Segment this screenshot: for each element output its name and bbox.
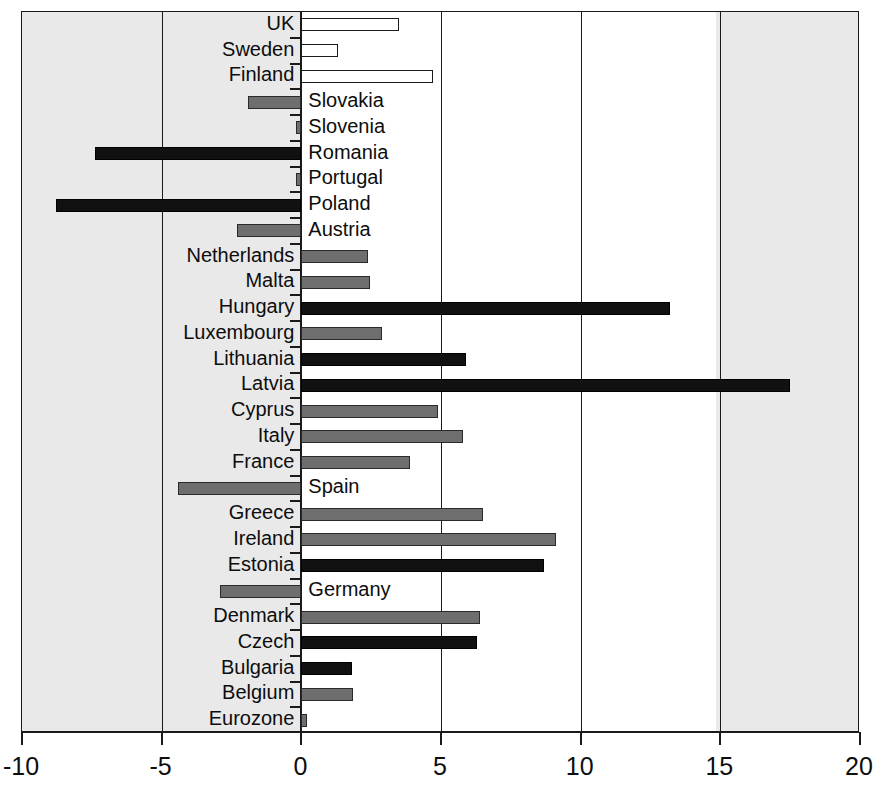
bar-estonia: [301, 559, 544, 572]
category-tick: [290, 578, 301, 580]
bar-eurozone: [301, 714, 307, 727]
category-label-uk: UK: [267, 13, 295, 33]
bar-cyprus: [301, 405, 438, 418]
bar-slovenia: [296, 121, 302, 134]
category-label-estonia: Estonia: [228, 554, 295, 574]
x-tick-5: [440, 732, 442, 745]
category-tick: [290, 88, 301, 90]
plot-area: [21, 11, 859, 732]
category-label-finland: Finland: [229, 64, 295, 84]
bar-bulgaria: [301, 662, 351, 675]
x-tick-20: [859, 732, 861, 745]
bar-denmark: [301, 611, 480, 624]
category-label-portugal: Portugal: [308, 167, 383, 187]
bar-lithuania: [301, 353, 466, 366]
category-label-netherlands: Netherlands: [187, 245, 295, 265]
category-label-eurozone: Eurozone: [209, 708, 295, 728]
plot-tint-right: [716, 12, 859, 731]
x-tick-label--5: -5: [150, 752, 172, 781]
bar-romania: [95, 147, 302, 160]
category-tick: [290, 217, 301, 219]
category-tick: [290, 140, 301, 142]
bar-czech: [301, 636, 477, 649]
bar-slovakia: [248, 96, 301, 109]
category-label-slovenia: Slovenia: [308, 116, 385, 136]
bar-italy: [301, 430, 463, 443]
bar-malta: [301, 276, 369, 289]
category-label-poland: Poland: [308, 193, 370, 213]
x-tick-label-20: 20: [845, 752, 873, 781]
category-tick: [290, 191, 301, 193]
x-tick-15: [719, 732, 721, 745]
bar-finland: [301, 70, 432, 83]
bar-germany: [220, 585, 301, 598]
bar-poland: [56, 199, 302, 212]
category-label-denmark: Denmark: [213, 605, 294, 625]
category-label-latvia: Latvia: [241, 373, 294, 393]
category-label-austria: Austria: [308, 219, 370, 239]
bar-austria: [237, 224, 301, 237]
bar-france: [301, 456, 410, 469]
bar-sweden: [301, 44, 337, 57]
category-label-lithuania: Lithuania: [213, 348, 294, 368]
category-label-luxembourg: Luxembourg: [183, 322, 294, 342]
category-label-slovakia: Slovakia: [308, 90, 384, 110]
category-label-belgium: Belgium: [222, 682, 294, 702]
category-label-sweden: Sweden: [222, 39, 294, 59]
category-label-greece: Greece: [229, 502, 295, 522]
bar-hungary: [301, 302, 670, 315]
category-tick: [290, 475, 301, 477]
category-tick: [290, 114, 301, 116]
category-label-france: France: [232, 451, 294, 471]
bar-spain: [178, 482, 301, 495]
category-label-cyprus: Cyprus: [231, 399, 294, 419]
gridline-15: [720, 12, 721, 731]
x-tick-0: [300, 732, 302, 745]
x-tick-label-0: 0: [293, 752, 307, 781]
category-label-ireland: Ireland: [233, 528, 294, 548]
x-tick-label-10: 10: [566, 752, 594, 781]
bar-ireland: [301, 533, 555, 546]
x-tick--10: [21, 732, 23, 745]
category-label-czech: Czech: [238, 631, 295, 651]
bar-belgium: [301, 688, 353, 701]
gridline--5: [162, 12, 163, 731]
bar-latvia: [301, 379, 790, 392]
category-label-germany: Germany: [308, 579, 390, 599]
x-tick--5: [161, 732, 163, 745]
x-tick-label-15: 15: [705, 752, 733, 781]
gridline-10: [581, 12, 582, 731]
bar-portugal: [296, 173, 302, 186]
x-tick-label--10: -10: [3, 752, 39, 781]
x-tick-10: [580, 732, 582, 745]
category-label-malta: Malta: [245, 270, 294, 290]
bar-netherlands: [301, 250, 368, 263]
category-label-spain: Spain: [308, 476, 359, 496]
category-label-italy: Italy: [258, 425, 295, 445]
category-label-romania: Romania: [308, 142, 388, 162]
x-tick-label-5: 5: [433, 752, 447, 781]
category-label-bulgaria: Bulgaria: [221, 657, 294, 677]
category-label-hungary: Hungary: [219, 296, 295, 316]
bar-luxembourg: [301, 327, 382, 340]
category-tick: [290, 166, 301, 168]
bar-greece: [301, 508, 483, 521]
bar-uk: [301, 18, 399, 31]
